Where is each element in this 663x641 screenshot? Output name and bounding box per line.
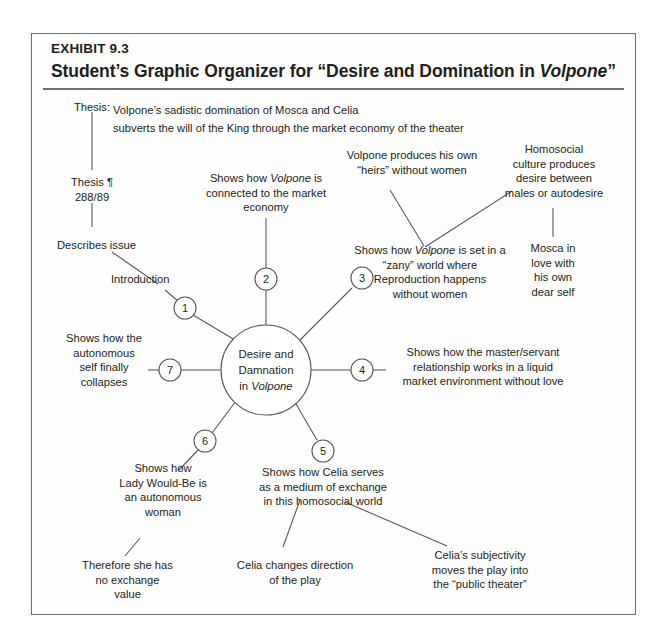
page-title: Student’s Graphic Organizer for “Desire … <box>51 61 616 82</box>
label-celia-subjectivity: Celia’s subjectivity moves the play into… <box>400 548 560 592</box>
label-branch-3: Shows how Volpone is set in a“zany” worl… <box>337 243 523 301</box>
label-branch-7: Shows how the autonomous self finally co… <box>49 331 159 389</box>
node-number-6: 6 <box>195 431 215 451</box>
label-branch-6: Shows how Lady Would-Be is an autonomous… <box>103 461 223 519</box>
label-thesis-paragraph: Thesis ¶ 288/89 <box>52 175 132 204</box>
node-number-2: 2 <box>256 269 276 289</box>
label-branch-5: Shows how Celia serves as a medium of ex… <box>228 465 418 509</box>
center-line3-prefix: in <box>239 380 251 392</box>
exhibit-number-label: EXHIBIT 9.3 <box>51 41 129 56</box>
title-text-prefix: Student’s Graphic Organizer for “Desire … <box>51 61 539 81</box>
node-number-4: 4 <box>352 360 372 380</box>
label-celia-changes-direction: Celia changes direction of the play <box>215 558 375 587</box>
branch2-prefix: Shows how <box>210 172 270 184</box>
branch3-suffix: is set in a <box>455 244 505 256</box>
center-line-2: Damnation <box>216 362 316 378</box>
branch3-italic-volpone: Volpone <box>415 244 456 256</box>
label-homosocial-culture: Homosocial culture produces desire betwe… <box>489 142 619 200</box>
label-introduction: Introduction <box>111 272 221 287</box>
label-branch-2: Shows how Volpone isconnected to the mar… <box>186 171 346 215</box>
node-number-1: 1 <box>175 298 195 318</box>
node-number-7: 7 <box>160 360 180 380</box>
title-text-suffix: ” <box>607 61 616 81</box>
branch2-suffix: is <box>311 172 322 184</box>
branch3-rest: “zany” world where Reproduction happens … <box>337 258 523 302</box>
label-volpone-heirs: Volpone produces his own “heirs” without… <box>322 148 502 177</box>
label-therefore-no-exchange-value: Therefore she has no exchange value <box>65 558 190 602</box>
node-number-5: 5 <box>313 441 333 461</box>
branch3-prefix: Shows how <box>354 244 414 256</box>
center-line-3: in Volpone <box>216 378 316 394</box>
label-describes-issue: Describes issue <box>57 238 187 253</box>
branch2-italic-volpone: Volpone <box>270 172 311 184</box>
center-topic-label: Desire and Damnation in Volpone <box>216 346 316 394</box>
label-mosca: Mosca in love with his own dear self <box>513 241 593 299</box>
title-divider <box>43 88 624 90</box>
thesis-caption: Thesis: <box>74 101 110 113</box>
title-italic-volpone: Volpone <box>539 61 607 81</box>
label-branch-4: Shows how the master/servant relationshi… <box>383 345 583 389</box>
thesis-statement: Volpone’s sadistic domination of Mosca a… <box>113 101 464 137</box>
branch2-rest: connected to the market economy <box>186 186 346 215</box>
center-line-1: Desire and <box>216 346 316 362</box>
center-italic-volpone: Volpone <box>251 380 292 392</box>
